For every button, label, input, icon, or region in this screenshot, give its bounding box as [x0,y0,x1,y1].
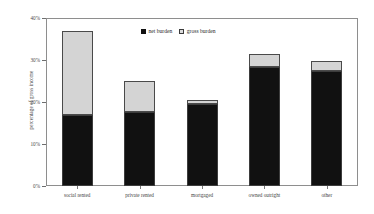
bar-group [124,18,155,186]
bar-segment-gross-burden [311,61,342,71]
bar-segment-net-burden [249,67,280,186]
x-axis-tick-mark [327,186,328,189]
bar-group [187,18,218,186]
bar-segment-gross-burden [124,81,155,112]
legend-item-gross-burden: gross burden [179,28,215,34]
chart-legend: net burden gross burden [141,28,216,34]
bar-group [62,18,93,186]
bar-chart: percentage of gross income 0%10%20%30%40… [0,0,374,214]
legend-swatch-gross-burden-icon [179,29,184,34]
y-axis-tick-label: 20% [30,98,40,106]
bar-segment-net-burden [124,112,155,186]
x-axis-label: other [287,192,367,198]
legend-item-net-burden: net burden [141,28,172,34]
bar-group [249,18,280,186]
bar-segment-gross-burden [249,54,280,67]
bar-segment-net-burden [187,104,218,186]
bar-group [311,18,342,186]
bars-layer [46,18,358,186]
bar-segment-net-burden [311,71,342,186]
y-axis-tick-label: 40% [30,14,40,22]
legend-label-gross-burden: gross burden [187,28,216,34]
bar-segment-gross-burden [62,31,93,115]
y-axis-tick-label: 10% [30,140,40,148]
x-axis-tick-mark [77,186,78,189]
legend-swatch-net-burden-icon [141,29,146,34]
x-axis-tick-mark [264,186,265,189]
x-axis-tick-mark [202,186,203,189]
y-axis-tick-label: 30% [30,56,40,64]
x-axis-tick-mark [140,186,141,189]
bar-segment-net-burden [62,115,93,186]
legend-label-net-burden: net burden [149,28,173,34]
y-axis-tick-label: 0% [33,182,40,190]
